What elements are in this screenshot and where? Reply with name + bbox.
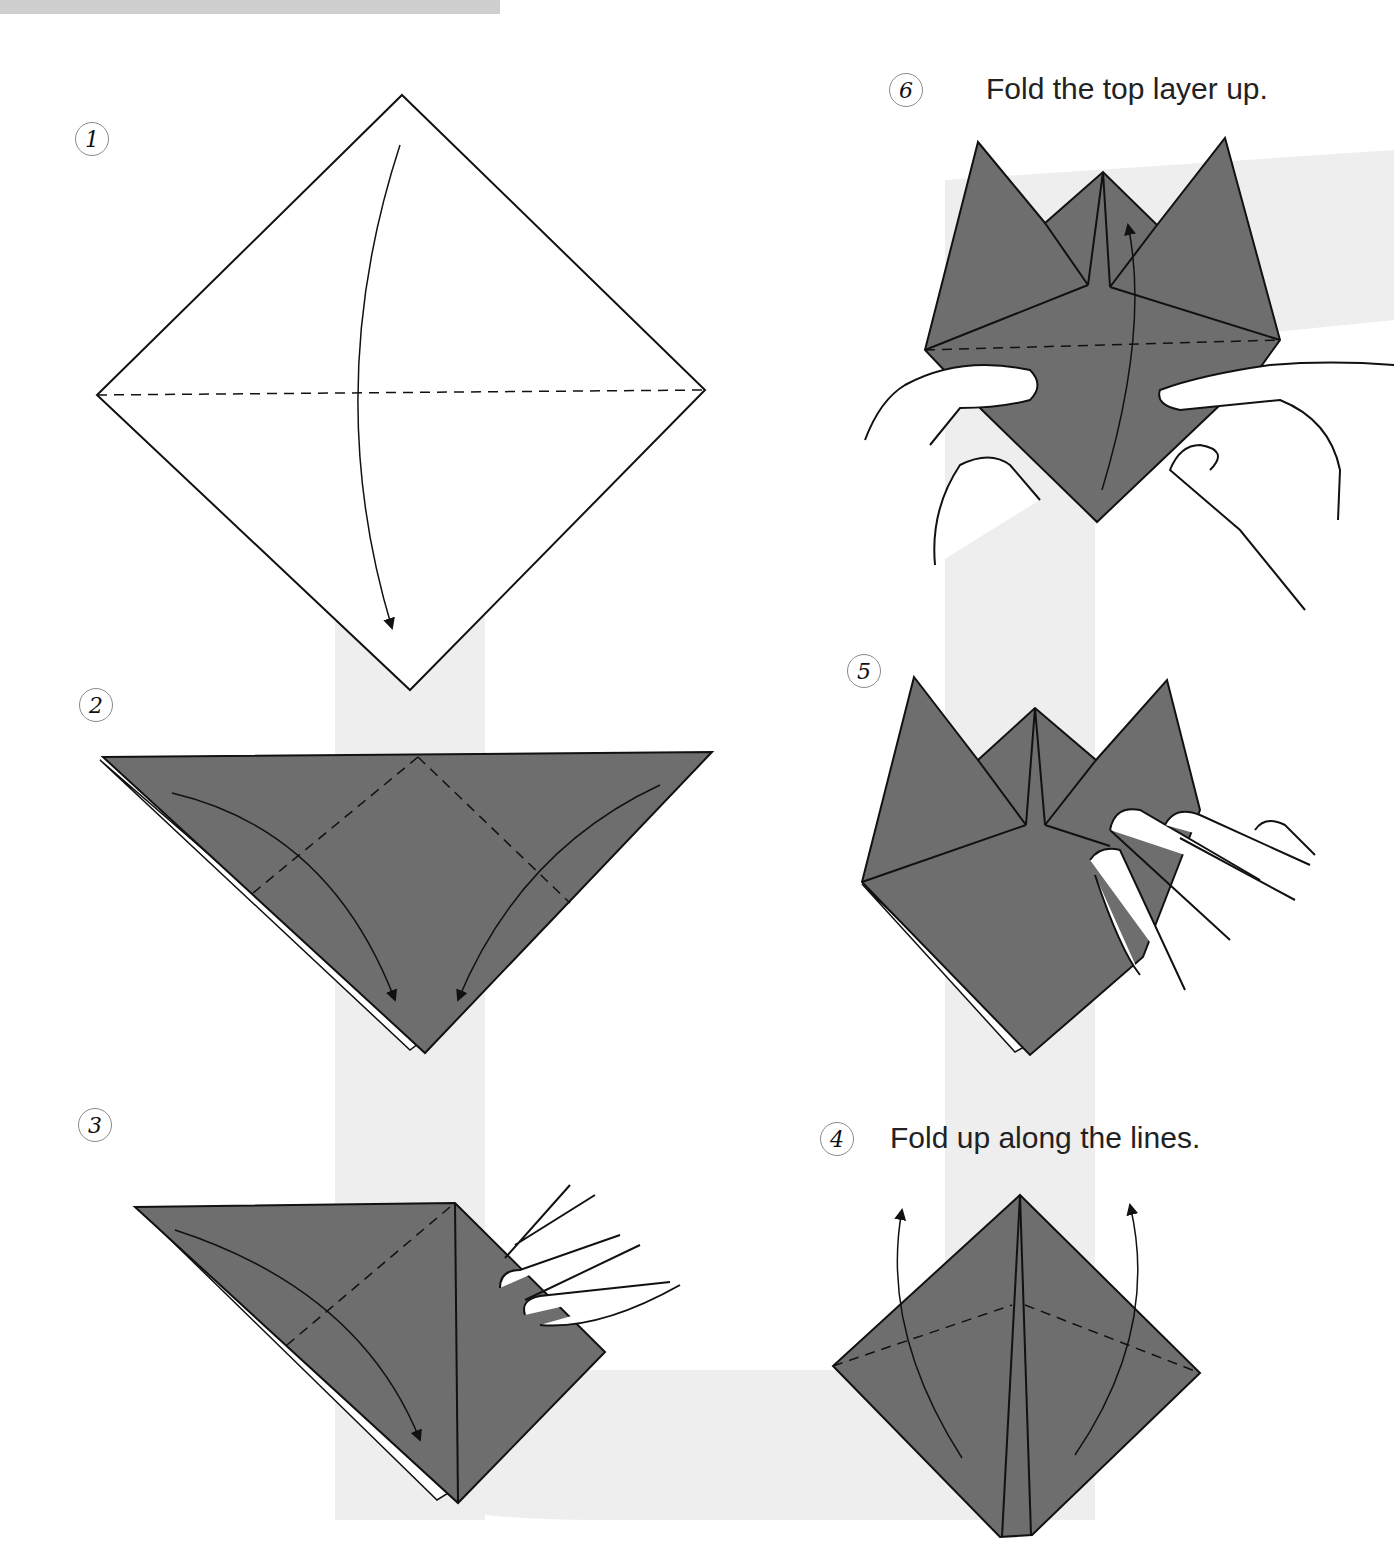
hand-icon	[500, 1185, 680, 1326]
step-number-badge: 1	[75, 122, 109, 156]
step-number-badge: 3	[78, 1108, 112, 1142]
step-2-diagram	[100, 752, 712, 1053]
diagram-canvas	[0, 0, 1394, 1552]
step-6-instruction: Fold the top layer up.	[986, 72, 1268, 106]
step-4-instruction: Fold up along the lines.	[890, 1121, 1200, 1155]
step-1-diagram	[97, 95, 705, 690]
step-number-badge: 5	[847, 654, 881, 688]
step-number-badge: 2	[79, 688, 113, 722]
step-number-badge: 4	[820, 1122, 854, 1156]
step-number-badge: 6	[889, 73, 923, 107]
